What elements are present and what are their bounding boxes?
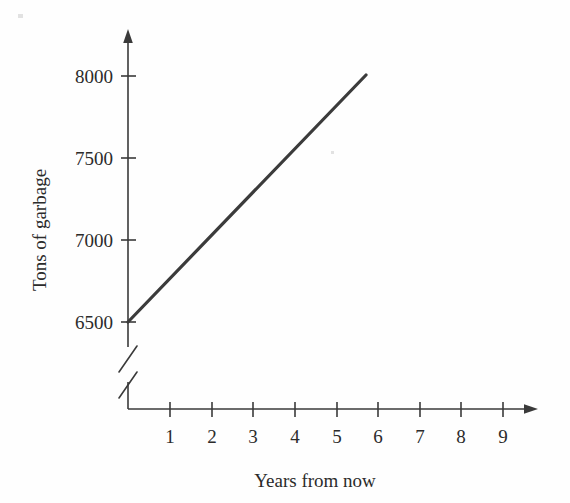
scan-speck	[331, 151, 334, 154]
x-axis-arrow-icon	[524, 404, 538, 414]
x-tick-label-3: 3	[248, 426, 258, 447]
y-tick-label-7000: 7000	[75, 230, 113, 251]
x-axis: 1 2 3 4 5 6 7 8 9	[128, 402, 538, 447]
scan-speck	[18, 14, 23, 18]
y-axis-title: Tons of garbage	[29, 169, 50, 291]
data-line-segment	[128, 75, 366, 322]
y-tick-label-6500: 6500	[75, 312, 113, 333]
y-axis-arrow-icon	[123, 29, 133, 43]
x-tick-label-8: 8	[456, 426, 466, 447]
chart-container: 8000 7500 7000 6500 1 2 3 4 5 6	[0, 0, 570, 503]
x-tick-label-6: 6	[373, 426, 383, 447]
y-tick-label-7500: 7500	[75, 148, 113, 169]
x-tick-label-2: 2	[207, 426, 217, 447]
x-tick-label-9: 9	[498, 426, 508, 447]
x-tick-label-1: 1	[165, 426, 175, 447]
line-chart-plot: 8000 7500 7000 6500 1 2 3 4 5 6	[0, 0, 570, 503]
x-tick-label-7: 7	[415, 426, 425, 447]
x-tick-label-4: 4	[290, 426, 300, 447]
y-tick-label-8000: 8000	[75, 66, 113, 87]
x-tick-label-5: 5	[332, 426, 342, 447]
y-axis: 8000 7500 7000 6500	[75, 29, 137, 409]
x-axis-title: Years from now	[254, 470, 376, 491]
data-series-tons-of-garbage	[128, 75, 366, 322]
